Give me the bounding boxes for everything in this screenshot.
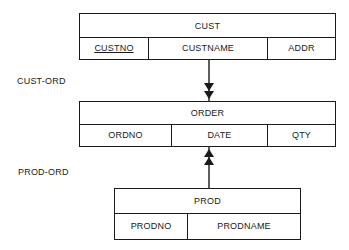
- set-arrows: [0, 0, 349, 250]
- arrowhead-up-icon: [204, 157, 214, 165]
- arrow-cust-ord: [204, 60, 214, 101]
- arrowhead-down-icon: [204, 91, 214, 99]
- arrow-prod-ord: [204, 147, 214, 188]
- arrowhead-up-icon: [204, 149, 214, 157]
- arrowhead-down-icon: [204, 83, 214, 91]
